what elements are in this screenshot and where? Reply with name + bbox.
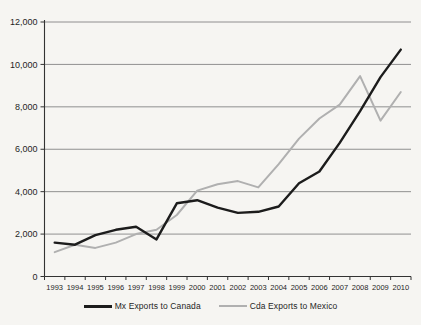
x-axis-label: 1997: [128, 283, 145, 292]
x-axis-label: 1995: [87, 283, 104, 292]
x-axis-label: 1993: [46, 283, 63, 292]
y-axis-label: 4,000: [15, 187, 38, 197]
legend-label-mx-exports: Mx Exports to Canada: [115, 301, 201, 311]
x-axis-label: 1999: [169, 283, 186, 292]
x-axis-label: 2005: [291, 283, 308, 292]
y-axis-label: 2,000: [15, 229, 38, 239]
legend-item-cda-exports: Cda Exports to Mexico: [219, 301, 338, 311]
y-axis-label: 0: [32, 272, 37, 282]
x-axis-label: 2000: [189, 283, 206, 292]
x-axis-label: 2001: [209, 283, 226, 292]
y-axis-label: 12,000: [10, 17, 38, 27]
y-axis-label: 6,000: [15, 144, 38, 154]
y-axis-label: 10,000: [10, 60, 38, 70]
x-axis-label: 2002: [230, 283, 247, 292]
legend-item-mx-exports: Mx Exports to Canada: [84, 301, 201, 311]
x-axis-label: 2006: [311, 283, 328, 292]
x-axis-label: 2009: [372, 283, 389, 292]
cda-exports-to-mexico-line: [55, 76, 401, 252]
x-axis-label: 1998: [148, 283, 165, 292]
x-axis-label: 2004: [270, 283, 287, 292]
y-axis-label: 8,000: [15, 102, 38, 112]
chart-legend: Mx Exports to Canada Cda Exports to Mexi…: [0, 301, 421, 311]
x-axis-label: 2003: [250, 283, 267, 292]
x-axis-label: 2008: [352, 283, 369, 292]
mx-exports-to-canada-line: [55, 50, 401, 245]
legend-label-cda-exports: Cda Exports to Mexico: [250, 301, 338, 311]
x-axis-label: 1996: [107, 283, 124, 292]
x-axis-label: 1994: [67, 283, 84, 292]
x-axis-label: 2010: [392, 283, 409, 292]
mx-exports-line-swatch-icon: [84, 305, 112, 308]
chart-plot-area: 02,0004,0006,0008,00010,00012,0001993199…: [0, 0, 421, 325]
x-axis-label: 2007: [331, 283, 348, 292]
cda-exports-line-swatch-icon: [219, 305, 247, 307]
line-chart-figure: 02,0004,0006,0008,00010,00012,0001993199…: [0, 0, 421, 325]
